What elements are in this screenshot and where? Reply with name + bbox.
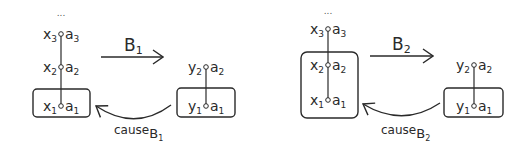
node-dot [472,104,477,109]
arrow-cause-b1: causeB1 [96,105,171,143]
arrow-label: B2 [392,34,411,56]
svg-text:a1: a1 [332,92,346,110]
svg-text:a1: a1 [210,98,224,116]
svg-text:x2: x2 [43,59,57,77]
svg-text:x3: x3 [43,26,57,44]
svg-text:a2: a2 [210,59,224,77]
node-dot [59,104,64,109]
arrow-label: causeB1 [114,123,163,143]
left-chain: ... x3 a3 x2 a2 x1 a1 [301,6,358,118]
svg-text:x1: x1 [43,98,57,116]
panel-1: ... x3 a3 x2 a2 x1 a1 [33,8,235,143]
arrow-label: B1 [124,35,143,57]
svg-text:a3: a3 [65,26,79,44]
node-dot [326,98,331,103]
panel-2: ... x3 a3 x2 a2 x1 a1 B2 [301,6,503,143]
svg-text:x3: x3 [310,21,324,39]
svg-text:y2: y2 [188,59,202,77]
node-dot [326,63,331,68]
svg-text:a2: a2 [65,59,79,77]
diagram-canvas: ... x3 a3 x2 a2 x1 a1 [0,0,529,158]
node-dot [204,104,209,109]
curved-arrow-icon [363,103,440,116]
arrow-cause-b2: causeB2 [363,103,440,143]
ellipsis: ... [324,6,333,16]
right-chain: y2 a2 y1 a1 [177,59,235,117]
svg-text:a2: a2 [332,57,346,75]
arrow-label: causeB2 [381,123,430,143]
svg-text:y1: y1 [456,98,470,116]
svg-text:x2: x2 [310,57,324,75]
node-dot [204,65,209,70]
node-dot [326,27,331,32]
svg-text:a1: a1 [65,98,79,116]
svg-text:y2: y2 [456,57,470,75]
svg-text:a3: a3 [332,21,346,39]
svg-text:x1: x1 [310,92,324,110]
arrow-b1: B1 [101,35,163,57]
svg-text:y1: y1 [188,98,202,116]
node-dot [59,65,64,70]
svg-text:a2: a2 [478,57,492,75]
curved-arrow-icon [96,105,171,119]
left-chain: ... x3 a3 x2 a2 x1 a1 [33,8,90,117]
node-dot [472,63,477,68]
ellipsis: ... [57,8,66,18]
svg-text:a1: a1 [478,98,492,116]
arrow-b2: B2 [370,34,433,56]
node-dot [59,32,64,37]
right-chain: y2 a2 y1 a1 [444,57,503,117]
